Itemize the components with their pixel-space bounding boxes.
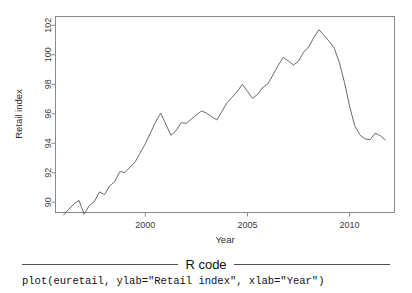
y-tick-label: 96 bbox=[43, 109, 53, 119]
y-tick-label: 94 bbox=[43, 138, 53, 148]
r-code-header: R code bbox=[0, 256, 412, 272]
y-tick-label: 92 bbox=[43, 168, 53, 178]
euretail-line-chart: 9092949698100102 200020052010 Retail ind… bbox=[0, 0, 412, 250]
header-rule-right bbox=[234, 264, 390, 265]
x-tick-label: 2010 bbox=[340, 220, 360, 230]
x-tick-label: 2005 bbox=[237, 220, 257, 230]
y-tick-label: 102 bbox=[43, 18, 53, 33]
r-code-title: R code bbox=[178, 258, 233, 271]
y-tick-label: 100 bbox=[43, 47, 53, 62]
plot-frame bbox=[56, 17, 395, 213]
header-rule-left bbox=[22, 264, 178, 265]
euretail-series-line bbox=[64, 30, 386, 215]
y-axis-title: Retail index bbox=[13, 89, 24, 139]
r-code-snippet: plot(euretail, ylab="Retail index", xlab… bbox=[22, 275, 324, 287]
y-tick-label: 90 bbox=[43, 197, 53, 207]
y-axis-ticks: 9092949698100102 bbox=[43, 18, 56, 207]
chart-figure: 9092949698100102 200020052010 Retail ind… bbox=[0, 0, 412, 250]
r-code-section: R code plot(euretail, ylab="Retail index… bbox=[0, 250, 412, 293]
x-axis-title: Year bbox=[215, 234, 234, 245]
x-axis-ticks: 200020052010 bbox=[135, 213, 359, 230]
x-tick-label: 2000 bbox=[135, 220, 155, 230]
y-tick-label: 98 bbox=[43, 79, 53, 89]
